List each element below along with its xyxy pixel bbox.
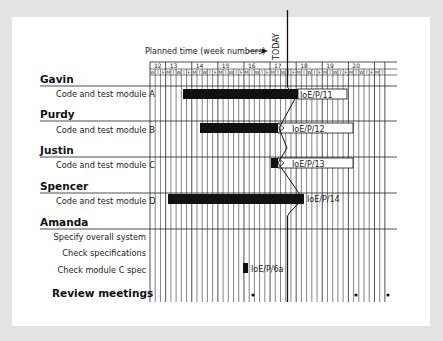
day-label: W [229,70,234,75]
day-label: T [338,70,342,75]
day-label: T [312,70,316,75]
person-amanda: Amanda [40,216,88,228]
day-label: M [192,70,196,75]
ref-c: IoE/P/13 [292,160,325,169]
day-label: T [275,70,279,75]
day-label: F [318,70,321,75]
task-specify-system: Specify overall system [54,232,146,242]
day-label: M [271,70,275,75]
day-label: W [203,70,208,75]
bar-c-done [271,158,278,168]
day-label: M [349,70,353,75]
week-label: 20 [352,62,360,69]
bar-d-done [168,194,304,204]
day-label: T [223,70,227,75]
day-label: T [260,70,264,75]
day-label: W [176,70,181,75]
day-label: W [150,70,155,75]
task-module-c: Code and test module C [56,160,155,170]
review-meeting-dot [251,293,254,296]
week-label: 19 [326,62,334,69]
week-label: 13 [170,62,178,69]
day-label: T [182,70,186,75]
task-check-specs: Check specifications [62,248,146,258]
day-label: W [359,70,364,75]
day-label: F [371,70,374,75]
day-label: W [333,70,338,75]
task-module-d: Code and test module D [56,196,156,206]
day-label: F [188,70,191,75]
week-label: 14 [196,62,204,69]
review-meeting-dot [386,293,389,296]
day-label: T [249,70,253,75]
week-label: 12 [154,62,162,69]
day-label: F [240,70,243,75]
day-label: W [307,70,312,75]
day-label: M [245,70,249,75]
week-label: 18 [300,62,308,69]
bar-a-done [183,89,298,99]
day-label: M [218,70,222,75]
day-label: T [234,70,238,75]
ref-d: IoE/P/14 [307,195,340,204]
person-gavin: Gavin [40,73,74,85]
week-label: 15 [222,62,230,69]
review-meetings-label: Review meetings [52,287,153,299]
day-label: T [155,70,159,75]
day-label: W [255,70,260,75]
planned-time-label: Planned time (week numbers) [145,47,265,56]
day-label: M [323,70,327,75]
bar-b-done [200,123,278,133]
review-meeting-dot [354,293,357,296]
day-label: F [214,70,217,75]
day-label: T [354,70,358,75]
day-label: F [292,70,295,75]
day-label: T [197,70,201,75]
day-label: W [281,70,286,75]
day-header: WTFMTWTFMTWTFMTWTFMTWTFMTWTFMTWTFMTWTFMT… [150,70,384,75]
week-label: 17 [274,62,282,69]
task-module-a: Code and test module A [56,89,155,99]
task-module-b: Code and test module B [56,125,155,135]
day-label: T [302,70,306,75]
day-label: F [162,70,165,75]
person-purdy: Purdy [40,108,75,120]
week-header: 121314151617181920 [154,62,360,69]
today-label: TODAY [272,33,281,61]
ref-e: IoE/P/6a [251,265,284,274]
person-justin: Justin [39,144,74,156]
day-label: T [208,70,212,75]
day-label: T [364,70,368,75]
bar-e-done [243,263,248,273]
gantt-chart: 121314151617181920 WTFMTWTFMTWTFMTWTFMTW… [0,0,443,341]
day-label: F [266,70,269,75]
day-label: F [344,70,347,75]
ref-b: IoE/P/12 [292,125,325,134]
week-label: 16 [248,62,256,69]
day-label: T [171,70,175,75]
person-spencer: Spencer [40,180,89,192]
task-check-module-c-spec: Check module C spec [58,265,146,275]
day-label: T [328,70,332,75]
ref-a: IoE/P/11 [300,91,333,100]
day-label: M [375,70,379,75]
day-label: M [166,70,170,75]
day-label: T [380,70,384,75]
day-label: M [297,70,301,75]
